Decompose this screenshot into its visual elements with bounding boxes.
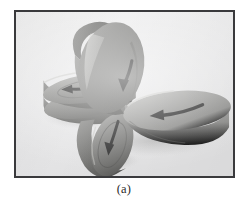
photograph-image (16, 12, 233, 176)
photograph-frame (14, 10, 235, 178)
figure-container: (a) (0, 0, 248, 202)
figure-caption: (a) (0, 181, 248, 197)
